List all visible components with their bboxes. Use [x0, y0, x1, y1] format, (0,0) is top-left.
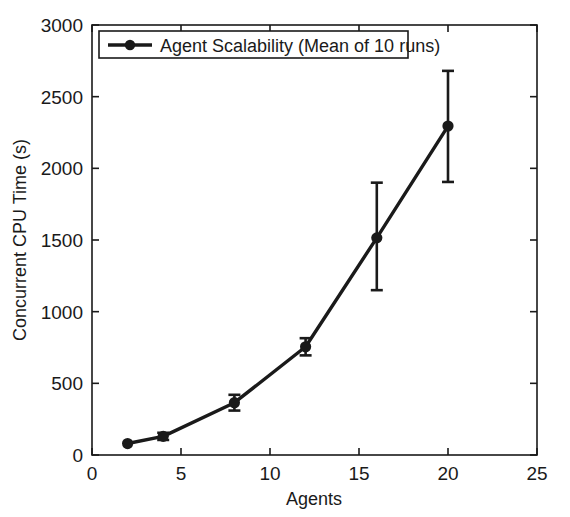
y-tick-label: 1500	[41, 230, 83, 251]
chart-background	[0, 0, 570, 517]
data-point-marker	[442, 120, 453, 131]
x-tick-label: 15	[348, 463, 369, 484]
chart-legend[interactable]: Agent Scalability (Mean of 10 runs)	[99, 31, 440, 58]
data-point-marker	[158, 431, 169, 442]
x-tick-label: 0	[87, 463, 98, 484]
x-tick-label: 25	[526, 463, 547, 484]
y-tick-label: 2500	[41, 87, 83, 108]
y-axis-title: Concurrent CPU Time (s)	[10, 139, 30, 341]
x-tick-label: 10	[259, 463, 280, 484]
data-point-marker	[371, 232, 382, 243]
figure-container: 050010001500200025003000 0510152025 Agen…	[0, 0, 570, 517]
scatter-line-chart: 050010001500200025003000 0510152025 Agen…	[0, 0, 570, 517]
legend-marker-icon	[125, 40, 135, 50]
y-tick-label: 0	[72, 445, 83, 466]
y-tick-label: 3000	[41, 15, 83, 36]
data-point-marker	[229, 397, 240, 408]
x-tick-label: 5	[176, 463, 187, 484]
y-tick-label: 500	[51, 373, 83, 394]
y-tick-label: 2000	[41, 158, 83, 179]
legend-entry-label: Agent Scalability (Mean of 10 runs)	[160, 36, 440, 56]
y-tick-label: 1000	[41, 302, 83, 323]
data-point-marker	[300, 341, 311, 352]
data-point-marker	[122, 438, 133, 449]
x-tick-label: 20	[437, 463, 458, 484]
x-axis-title: Agents	[286, 489, 342, 509]
